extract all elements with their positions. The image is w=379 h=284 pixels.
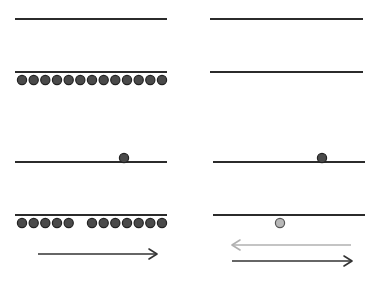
dark-dot bbox=[146, 75, 155, 84]
dark-dot bbox=[134, 75, 143, 84]
right-panel bbox=[210, 19, 365, 266]
dark-dot bbox=[157, 218, 166, 227]
light-dot bbox=[275, 218, 284, 227]
dark-dot bbox=[29, 218, 38, 227]
dark-dot bbox=[119, 153, 128, 162]
dark-dot bbox=[41, 75, 50, 84]
dark-dot bbox=[87, 75, 96, 84]
dark-dot bbox=[17, 218, 26, 227]
dark-dot bbox=[111, 218, 120, 227]
dark-dot bbox=[17, 75, 26, 84]
dark-dot bbox=[317, 153, 326, 162]
dark-dot bbox=[52, 218, 61, 227]
dark-dot bbox=[122, 75, 131, 84]
dark-dot bbox=[64, 75, 73, 84]
right-arrow-icon bbox=[38, 249, 157, 259]
dark-dot bbox=[99, 218, 108, 227]
dark-dot bbox=[64, 218, 73, 227]
dark-dot bbox=[111, 75, 120, 84]
right-arrow-icon bbox=[232, 256, 352, 266]
dark-dot bbox=[29, 75, 38, 84]
dark-dot bbox=[122, 218, 131, 227]
dark-dot bbox=[87, 218, 96, 227]
dark-dot bbox=[157, 75, 166, 84]
dark-dot bbox=[76, 75, 85, 84]
diagram-canvas bbox=[0, 0, 379, 284]
left-arrow-icon bbox=[232, 240, 351, 250]
dark-dot bbox=[41, 218, 50, 227]
dark-dot bbox=[99, 75, 108, 84]
left-panel bbox=[15, 19, 167, 259]
diagram-svg bbox=[0, 0, 379, 284]
dark-dot bbox=[146, 218, 155, 227]
dark-dot bbox=[52, 75, 61, 84]
dark-dot bbox=[134, 218, 143, 227]
